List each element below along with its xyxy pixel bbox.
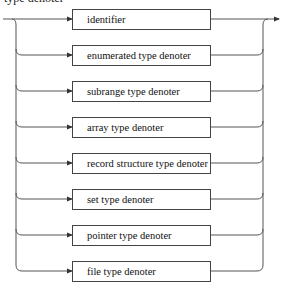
alternative-label: record structure type denoter: [87, 158, 208, 169]
alternative-box-file: file type denoter: [72, 261, 211, 282]
alternative-label: enumerated type denoter: [87, 50, 191, 61]
alternative-box-identifier: identifier: [72, 9, 211, 30]
alternative-label: set type denoter: [87, 194, 153, 205]
alternative-box-array: array type denoter: [72, 117, 211, 138]
alternative-box-subrange: subrange type denoter: [72, 81, 211, 102]
alternative-label: subrange type denoter: [87, 86, 180, 97]
alternative-label: identifier: [87, 14, 125, 25]
alternative-box-set: set type denoter: [72, 189, 211, 210]
alternative-box-enumerated: enumerated type denoter: [72, 45, 211, 66]
alternative-label: file type denoter: [87, 266, 156, 277]
alternative-box-pointer: pointer type denoter: [72, 225, 211, 246]
alternative-box-record: record structure type denoter: [72, 153, 211, 174]
syntax-diagram: type denoter: [0, 0, 281, 287]
alternative-label: array type denoter: [87, 122, 163, 133]
alternative-label: pointer type denoter: [87, 230, 172, 241]
